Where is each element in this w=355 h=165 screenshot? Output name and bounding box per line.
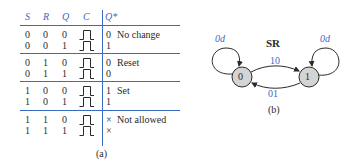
- transition-label-0-0: 0d: [215, 33, 225, 44]
- transition-label-1-0: 01: [268, 88, 278, 99]
- state-label-0: 0: [238, 71, 243, 82]
- transition-label-0-1: 10: [270, 55, 280, 66]
- transition-label-1-1: 0d: [320, 33, 330, 44]
- transition-arrow-0-to-1: [251, 66, 299, 72]
- state-diagram-graphic: [0, 0, 355, 165]
- state-label-1: 1: [305, 71, 310, 82]
- diagram-title: SR: [266, 37, 280, 49]
- caption-b: (b): [268, 104, 280, 115]
